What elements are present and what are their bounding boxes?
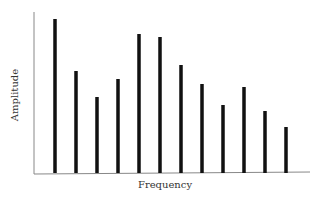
- bar-9: [221, 105, 225, 173]
- bar-2: [74, 71, 78, 173]
- bar-4: [116, 79, 120, 173]
- x-axis-label: Frequency: [130, 179, 200, 190]
- bars: [53, 19, 288, 173]
- bar-11: [263, 111, 267, 173]
- amplitude-frequency-chart: [0, 0, 319, 200]
- bar-10: [242, 87, 246, 173]
- bar-1: [53, 19, 57, 173]
- bar-8: [200, 84, 204, 173]
- bar-7: [179, 65, 183, 173]
- y-axis-label: Amplitude: [9, 67, 23, 123]
- bar-12: [284, 127, 288, 173]
- bar-5: [137, 34, 141, 173]
- bar-6: [158, 37, 162, 173]
- bar-3: [95, 97, 99, 173]
